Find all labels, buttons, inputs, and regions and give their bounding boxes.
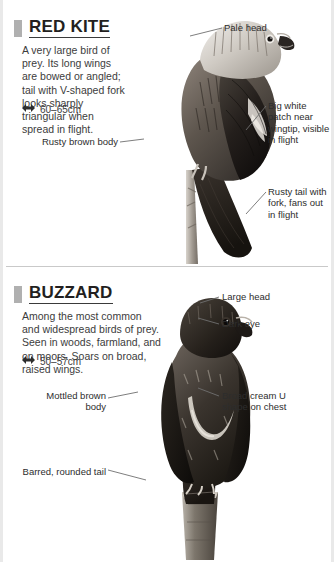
leader-cream-u [198,384,222,402]
red-kite-heading: RED KITE [14,18,110,38]
label-rusty-body: Rusty brown body [30,136,118,147]
leader-large-head [200,293,222,307]
label-large-head: Large head [222,291,310,302]
size-value: 60–65cm [40,104,81,115]
label-white-patch: Big white patch near wingtip, visible in… [268,100,332,146]
label-mottled-body: Mottled brown body [24,390,106,413]
section-marker [14,286,22,303]
leader-rusty-tail [246,186,270,218]
red-kite-size: 60–65cm [22,103,81,115]
size-value: 50–57cm [40,356,81,367]
leader-dark-eye [198,314,222,330]
label-pale-head: Pale head [224,22,316,33]
panel-divider [6,266,328,267]
buzzard-size: 50–57cm [22,355,81,367]
label-cream-u: Broad cream U shape on chest [222,390,310,413]
leader-white-patch [246,100,270,134]
species-name: BUZZARD [29,284,113,304]
species-entry-red-kite: RED KITE A very large bird of prey. Its … [0,0,334,266]
label-barred-tail: Barred, rounded tail [22,466,106,477]
red-kite-description: A very large bird of prey. Its long wing… [22,44,126,136]
double-arrow-icon [22,103,35,115]
leader-pale-head [190,22,226,40]
leader-barred-tail [108,464,150,484]
section-marker [14,20,22,37]
field-guide-page: RED KITE A very large bird of prey. Its … [0,0,334,562]
species-name: RED KITE [29,18,110,38]
species-entry-buzzard: BUZZARD Among the most common and widesp… [0,266,334,562]
leader-mottled-body [108,388,142,404]
double-arrow-icon [22,355,35,367]
label-dark-eye: Dark eye [222,318,310,329]
leader-rusty-body [120,134,148,148]
buzzard-heading: BUZZARD [14,284,113,304]
label-rusty-tail: Rusty tail with fork, fans out in flight [268,186,332,220]
